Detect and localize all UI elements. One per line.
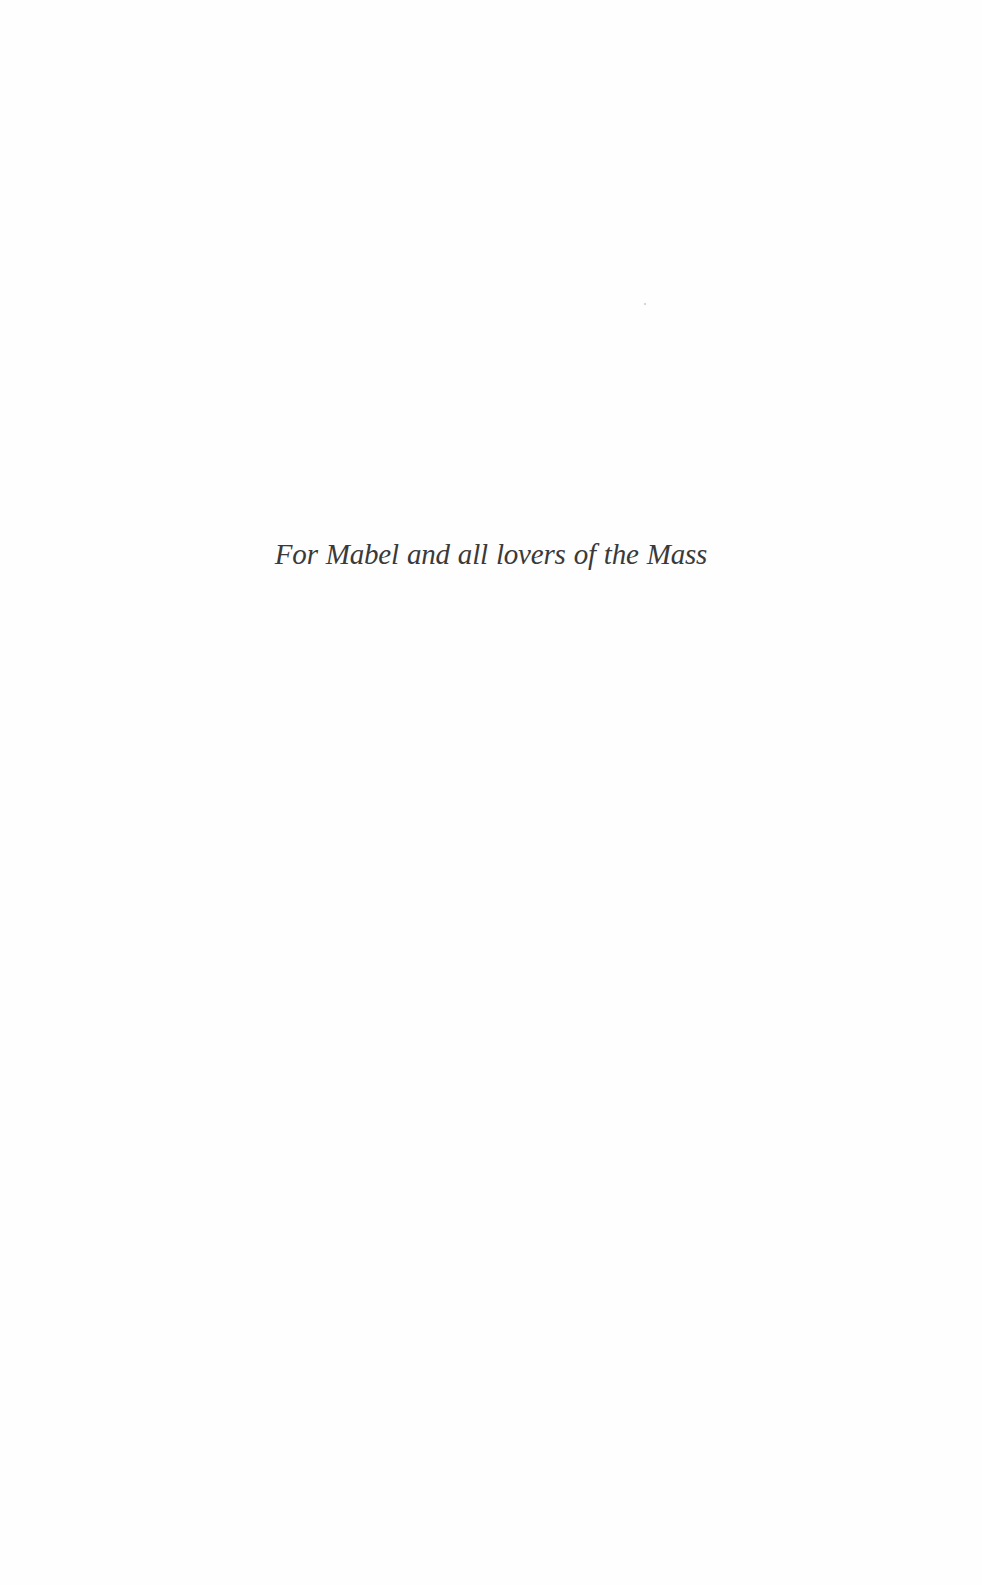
- book-page: For Mabel and all lovers of the Mass: [0, 0, 982, 1585]
- dedication-text: For Mabel and all lovers of the Mass: [0, 536, 982, 572]
- scan-speck: [644, 303, 646, 305]
